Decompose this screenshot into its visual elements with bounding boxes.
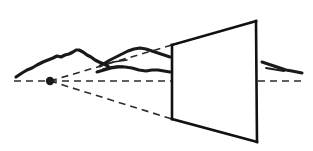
canvas-background bbox=[0, 0, 313, 151]
picture-plane-far-edge bbox=[256, 21, 257, 142]
diagram-canvas bbox=[0, 0, 313, 151]
perspective-diagram bbox=[0, 0, 313, 151]
vanishing-point-marker bbox=[46, 77, 54, 85]
